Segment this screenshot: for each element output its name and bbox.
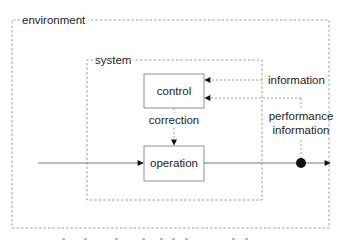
measurement-point-dot xyxy=(296,158,306,168)
control-system-diagram: environment system control operation cor… xyxy=(0,0,351,240)
output-edge xyxy=(204,158,330,168)
performance-label-line1: performance xyxy=(269,110,334,122)
operation-node: operation xyxy=(144,146,204,181)
correction-label: correction xyxy=(149,114,200,126)
performance-information-edge: performance information xyxy=(205,98,333,158)
information-edge: information xyxy=(205,74,325,86)
environment-label: environment xyxy=(22,14,86,26)
performance-label-line2: information xyxy=(273,124,330,136)
control-node: control xyxy=(144,74,204,108)
operation-label: operation xyxy=(150,157,198,169)
control-label: control xyxy=(157,85,192,97)
system-label: system xyxy=(95,54,131,66)
correction-edge: correction xyxy=(149,108,200,145)
information-label: information xyxy=(268,74,325,86)
